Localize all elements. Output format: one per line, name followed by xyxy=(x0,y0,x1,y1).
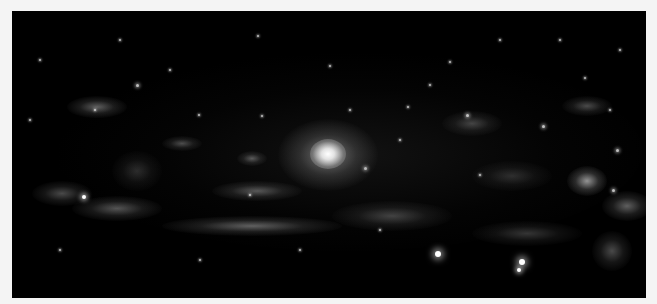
star-cluster xyxy=(32,181,92,206)
star xyxy=(169,69,171,71)
star xyxy=(82,195,86,199)
star xyxy=(198,114,200,116)
star-cluster xyxy=(592,231,632,271)
star-cluster xyxy=(162,216,342,236)
star xyxy=(499,39,501,41)
star xyxy=(29,119,31,121)
star xyxy=(616,149,619,152)
star-cluster xyxy=(472,161,552,191)
star xyxy=(94,109,96,111)
star xyxy=(466,114,469,117)
star xyxy=(429,84,431,86)
star xyxy=(364,167,367,170)
star xyxy=(542,125,545,128)
star xyxy=(39,59,41,61)
galaxy-halo xyxy=(52,51,642,251)
star xyxy=(261,115,263,117)
star-cluster xyxy=(562,96,612,116)
star xyxy=(59,249,61,251)
star xyxy=(119,39,121,41)
star xyxy=(435,251,441,257)
star xyxy=(584,77,586,79)
star xyxy=(329,65,331,67)
galaxy-core-outer xyxy=(278,119,378,191)
star xyxy=(199,259,201,261)
star-cluster xyxy=(67,96,127,118)
star xyxy=(612,189,615,192)
star xyxy=(136,84,139,87)
star-cluster xyxy=(442,111,502,136)
star xyxy=(619,49,621,51)
star xyxy=(299,249,301,251)
star xyxy=(249,194,251,196)
star xyxy=(479,174,481,176)
star xyxy=(399,139,401,141)
galaxy-core xyxy=(310,139,346,169)
star-cluster xyxy=(237,151,267,166)
star-cluster xyxy=(212,181,302,201)
star xyxy=(407,106,409,108)
star xyxy=(559,39,561,41)
galaxy-image xyxy=(12,11,646,298)
star-cluster xyxy=(72,196,162,221)
star-cluster xyxy=(602,191,646,221)
star xyxy=(517,268,521,272)
star xyxy=(519,259,525,265)
star xyxy=(609,109,611,111)
star-cluster xyxy=(332,201,452,231)
star-cluster xyxy=(162,136,202,151)
star xyxy=(379,229,381,231)
star-cluster xyxy=(472,221,582,246)
star xyxy=(449,61,451,63)
star xyxy=(257,35,259,37)
star xyxy=(349,109,351,111)
star-cluster xyxy=(567,166,607,196)
star-cluster xyxy=(112,151,162,191)
